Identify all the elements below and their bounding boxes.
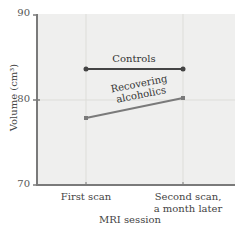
ytick-label-70: 70 xyxy=(8,178,30,189)
y-axis-title: Volume (cm³) xyxy=(8,63,19,133)
x-axis xyxy=(36,184,235,186)
x-axis-title: MRI session xyxy=(90,214,170,225)
ytick-label-90: 90 xyxy=(8,7,30,18)
xtick-label-first: First scan xyxy=(56,191,116,203)
xtick-label-second-line1: Second scan, xyxy=(148,191,228,203)
controls-point-first xyxy=(84,67,89,72)
xtick-label-second: Second scan, a month later xyxy=(148,191,228,215)
series-label-controls: Controls xyxy=(104,53,164,64)
alcoholics-point-first xyxy=(84,116,88,120)
line-chart: 90 80 70 Volume (cm³) First scan Second … xyxy=(0,0,235,229)
controls-point-second xyxy=(181,67,186,72)
y-axis xyxy=(36,14,38,186)
alcoholics-point-second xyxy=(181,96,185,100)
